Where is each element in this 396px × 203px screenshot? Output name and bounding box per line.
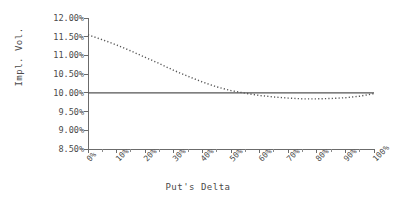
x-tick-label: 30%	[171, 147, 188, 164]
x-tick-label: 60%	[257, 147, 274, 164]
y-axis-title: Impl. Vol.	[14, 12, 24, 102]
x-tick-label: 50%	[228, 147, 245, 164]
x-tick-label: 90%	[342, 147, 359, 164]
x-axis-title: Put's Delta	[0, 182, 396, 192]
x-tick-label: 70%	[285, 147, 302, 164]
x-tick-label: 40%	[199, 147, 216, 164]
x-tick-label: 10%	[114, 147, 131, 164]
x-tick-label: 100%	[371, 143, 391, 163]
x-tick-label: 20%	[142, 147, 159, 164]
x-tick-label-group: 0%10%20%30%40%50%60%70%80%90%100%	[0, 0, 396, 203]
x-tick-label: 0%	[85, 150, 98, 163]
x-tick-label: 80%	[314, 147, 331, 164]
